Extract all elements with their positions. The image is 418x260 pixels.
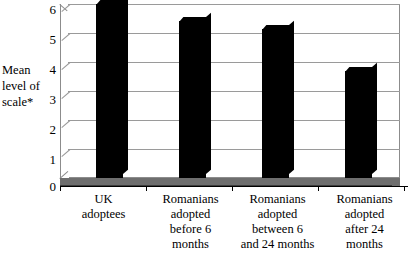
category-axis-labels: UKadopteesRomaniansadoptedbefore 6months… [56, 192, 414, 258]
bar-side-face-2 [289, 20, 294, 174]
category-label-2-line-2: between 6 [229, 222, 326, 237]
category-label-2-line-0: Romanians [229, 192, 326, 207]
bar-side-face-3 [372, 62, 377, 174]
category-label-3-line-3: months [316, 237, 413, 252]
category-tick-4 [404, 186, 405, 191]
y-tick-0: 0 [40, 180, 56, 193]
y-tick-2: 2 [40, 123, 56, 136]
category-label-2-line-1: adopted [229, 207, 326, 222]
y-tick-6: 6 [40, 3, 56, 16]
category-label-0-line-1: adoptees [55, 207, 152, 222]
category-tick-3 [318, 186, 319, 191]
category-label-1-line-3: months [142, 237, 239, 252]
category-label-1: Romaniansadoptedbefore 6months [142, 192, 239, 252]
category-axis-line [60, 186, 408, 187]
category-label-3-line-1: adopted [316, 207, 413, 222]
bar-series [60, 4, 400, 187]
category-tick-0 [60, 186, 61, 191]
category-label-3-line-2: after 24 [316, 222, 413, 237]
category-label-0-line-0: UK [55, 192, 152, 207]
plot-area [60, 4, 400, 186]
bar-1 [179, 21, 206, 178]
category-label-1-line-0: Romanians [142, 192, 239, 207]
category-label-2-line-3: and 24 months [229, 237, 326, 252]
category-label-2: Romaniansadoptedbetween 6and 24 months [229, 192, 326, 252]
category-label-3-line-0: Romanians [316, 192, 413, 207]
category-tick-2 [232, 186, 233, 191]
category-label-0: UKadoptees [55, 192, 152, 222]
bar-2 [262, 29, 289, 178]
category-label-1-line-2: before 6 [142, 222, 239, 237]
y-tick-5: 5 [40, 33, 56, 46]
category-tick-1 [146, 186, 147, 191]
category-label-3: Romaniansadoptedafter 24months [316, 192, 413, 252]
bar-chart: Mean level of scale* 6 5 4 3 2 1 0 UKado… [0, 0, 418, 260]
bar-side-face-1 [206, 13, 211, 174]
bar-side-face-0 [123, 0, 128, 174]
y-tick-3: 3 [40, 93, 56, 106]
y-tick-1: 1 [40, 153, 56, 166]
category-label-1-line-1: adopted [142, 207, 239, 222]
bar-0 [96, 4, 123, 178]
y-tick-4: 4 [40, 63, 56, 76]
y-axis-tick-labels: 6 5 4 3 2 1 0 [38, 0, 56, 195]
bar-3 [345, 71, 372, 178]
